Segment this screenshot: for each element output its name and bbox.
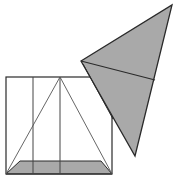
geometry-diagram [0, 0, 181, 176]
bottom-trapezoid [6, 161, 112, 174]
square-outline [6, 77, 112, 174]
folded-triangle [81, 5, 172, 156]
inscribed-triangle [6, 77, 112, 174]
diagram-canvas [0, 0, 181, 176]
